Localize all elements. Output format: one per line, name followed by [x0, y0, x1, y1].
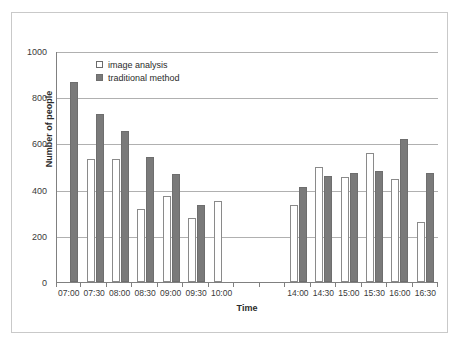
legend-label-traditional-method: traditional method	[108, 73, 180, 83]
x-tick-label: 14:00	[285, 288, 310, 302]
x-tick-label: 09:30	[183, 288, 208, 302]
x-tick-mark	[260, 283, 285, 287]
legend-item-traditional-method: traditional method	[96, 71, 180, 84]
x-tick-mark	[81, 283, 106, 287]
bar-traditional-method	[400, 139, 408, 282]
bar-traditional-method	[426, 173, 434, 282]
chart-legend: image analysis traditional method	[96, 58, 180, 84]
x-tick-mark	[285, 283, 310, 287]
y-axis-title: Number of people	[44, 74, 54, 184]
bar-category-slot	[159, 52, 184, 282]
x-tick-label	[260, 288, 285, 302]
bar-traditional-method	[146, 157, 154, 282]
bar-image-analysis	[87, 159, 95, 282]
x-tick-label: 07:30	[81, 288, 106, 302]
legend-label-image-analysis: image analysis	[108, 60, 168, 70]
bar-category-slot	[57, 52, 82, 282]
bar-image-analysis	[137, 209, 145, 282]
x-tick-mark	[387, 283, 412, 287]
x-tick-label: 07:00	[56, 288, 81, 302]
bar-image-analysis	[163, 196, 171, 282]
bar-category-slot	[108, 52, 133, 282]
x-tick-mark	[413, 283, 438, 287]
y-tick-200: 200	[1, 233, 47, 242]
bar-image-analysis	[214, 201, 222, 282]
bar-category-slot	[311, 52, 336, 282]
bar-image-analysis	[341, 177, 349, 282]
bar-traditional-method	[350, 173, 358, 282]
y-tick-0: 0	[1, 279, 47, 288]
x-tick-mark	[234, 283, 259, 287]
bar-category-slot	[286, 52, 311, 282]
legend-item-image-analysis: image analysis	[96, 58, 180, 71]
bar-image-analysis	[366, 153, 374, 282]
bar-image-analysis	[188, 218, 196, 282]
x-tick-label: 08:30	[132, 288, 157, 302]
plot-area	[56, 52, 438, 283]
x-tick-mark	[311, 283, 336, 287]
bar-category-slot	[235, 52, 260, 282]
x-tick-label: 15:30	[362, 288, 387, 302]
bar-category-slot	[336, 52, 361, 282]
bar-traditional-method	[324, 176, 332, 282]
bar-traditional-method	[70, 82, 78, 282]
x-tick-mark	[362, 283, 387, 287]
filled-square-icon	[96, 74, 103, 81]
bar-group-container	[57, 52, 438, 282]
bar-category-slot	[387, 52, 412, 282]
x-tick-mark	[107, 283, 132, 287]
bar-traditional-method	[299, 187, 307, 282]
y-tick-800: 800	[1, 94, 47, 103]
bar-category-slot	[133, 52, 158, 282]
bar-category-slot	[413, 52, 438, 282]
x-tick-label: 16:00	[387, 288, 412, 302]
bar-image-analysis	[315, 167, 323, 283]
x-tick-label: 10:00	[209, 288, 234, 302]
y-tick-400: 400	[1, 187, 47, 196]
bar-traditional-method	[172, 174, 180, 282]
x-tick-mark	[183, 283, 208, 287]
x-axis-tick-labels: 07:0007:3008:0008:3009:0009:3010:0014:00…	[56, 288, 438, 302]
x-tick-label: 16:30	[413, 288, 438, 302]
x-tick-label: 14:30	[311, 288, 336, 302]
x-tick-label	[234, 288, 259, 302]
bar-category-slot	[209, 52, 234, 282]
x-axis-tick-marks	[56, 283, 438, 287]
x-tick-label: 08:00	[107, 288, 132, 302]
bar-image-analysis	[112, 159, 120, 282]
bar-category-slot	[184, 52, 209, 282]
bar-traditional-method	[197, 205, 205, 282]
x-tick-mark	[336, 283, 361, 287]
x-tick-mark	[209, 283, 234, 287]
x-axis-title: Time	[56, 303, 438, 313]
x-tick-label: 09:00	[158, 288, 183, 302]
bar-traditional-method	[96, 114, 104, 282]
hollow-square-icon	[96, 61, 103, 68]
chart-figure: 1000 800 600 400 200 0 Number of people …	[0, 0, 461, 345]
bar-category-slot	[260, 52, 285, 282]
bar-category-slot	[82, 52, 107, 282]
bar-image-analysis	[391, 179, 399, 282]
x-tick-label: 15:00	[336, 288, 361, 302]
bar-traditional-method	[375, 171, 383, 282]
bar-image-analysis	[290, 205, 298, 282]
x-tick-mark	[132, 283, 157, 287]
bar-category-slot	[362, 52, 387, 282]
y-tick-600: 600	[1, 140, 47, 149]
x-tick-mark	[56, 283, 81, 287]
y-tick-1000: 1000	[1, 48, 47, 57]
x-tick-mark	[158, 283, 183, 287]
bar-image-analysis	[417, 222, 425, 282]
bar-traditional-method	[121, 131, 129, 282]
